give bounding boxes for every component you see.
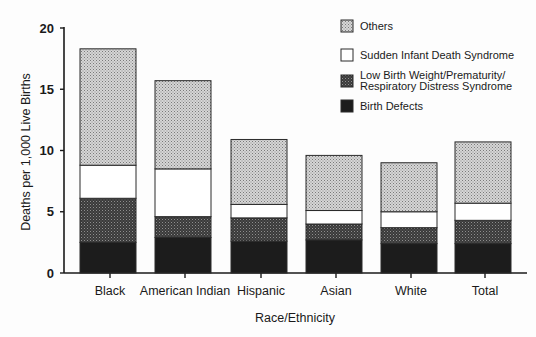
bar-segment: [155, 81, 211, 169]
bar-segment: [231, 218, 287, 241]
bar-segment: [381, 212, 437, 228]
x-axis-title: Race/Ethnicity: [255, 311, 336, 325]
y-tick-label: 10: [40, 143, 54, 158]
y-axis-title: Deaths per 1,000 Live Births: [19, 73, 33, 231]
x-tick-label: Asian: [320, 284, 351, 298]
bar-group-black: [80, 49, 136, 273]
bar-segment: [155, 237, 211, 273]
bar-segment: [306, 240, 362, 273]
legend-item: Others: [341, 20, 394, 32]
bar-segment: [80, 165, 136, 198]
bar-segment: [80, 198, 136, 242]
y-tick-label: 15: [40, 82, 54, 97]
legend-swatch: [341, 49, 353, 61]
bar-segment: [306, 224, 362, 240]
legend-label: Sudden Infant Death Syndrome: [360, 49, 514, 61]
bar-segment: [455, 244, 511, 273]
x-tick-label: White: [395, 284, 427, 298]
legend-item: Birth Defects: [341, 100, 423, 112]
bar-segment: [381, 163, 437, 212]
bar-segment: [155, 169, 211, 217]
bar-segment: [306, 155, 362, 210]
bar-segment: [80, 242, 136, 273]
bar-segment: [231, 241, 287, 273]
x-tick-label: Black: [95, 284, 126, 298]
bar-group-american-indian: [155, 81, 211, 273]
bar-segment: [381, 228, 437, 244]
x-tick-label: Total: [472, 284, 498, 298]
legend-item: Sudden Infant Death Syndrome: [341, 49, 514, 61]
bar-segment: [381, 244, 437, 273]
bar-segment: [80, 49, 136, 165]
bar-segment: [306, 211, 362, 224]
bar-segment: [231, 139, 287, 204]
bar-segment: [455, 203, 511, 220]
bar-group-total: [455, 142, 511, 273]
legend-item: Low Birth Weight/Prematurity/Respiratory…: [341, 69, 512, 92]
legend-swatch: [341, 20, 353, 32]
x-axis: BlackAmerican IndianHispanicAsianWhiteTo…: [64, 273, 527, 298]
bar-segment: [231, 204, 287, 217]
bar-group-hispanic: [231, 139, 287, 273]
legend-swatch: [341, 75, 353, 87]
y-axis: 05101520: [40, 21, 64, 281]
legend: OthersSudden Infant Death SyndromeLow Bi…: [341, 20, 514, 112]
stacked-bar-chart: 05101520 BlackAmerican IndianHispanicAsi…: [0, 0, 536, 337]
bar-segment: [455, 142, 511, 203]
y-tick-label: 5: [47, 204, 54, 219]
y-tick-label: 0: [47, 266, 54, 281]
legend-label: Others: [360, 20, 394, 32]
legend-label: Respiratory Distress Syndrome: [360, 80, 512, 92]
y-tick-label: 20: [40, 21, 54, 36]
bar-segment: [155, 217, 211, 238]
bar-segment: [455, 220, 511, 243]
x-tick-label: Hispanic: [237, 284, 285, 298]
bar-group-asian: [306, 155, 362, 273]
legend-swatch: [341, 100, 353, 112]
bar-group-white: [381, 163, 437, 273]
x-tick-label: American Indian: [140, 284, 230, 298]
legend-label: Birth Defects: [360, 100, 423, 112]
